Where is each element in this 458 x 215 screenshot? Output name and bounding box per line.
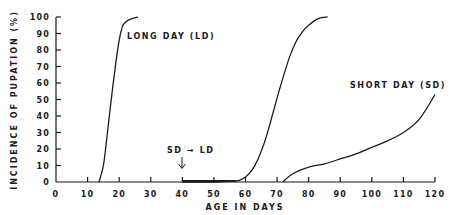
x-tick-label: 30 — [144, 190, 158, 199]
y-tick-label: 90 — [36, 30, 50, 39]
y-tick-label: 40 — [36, 112, 50, 121]
curves — [99, 17, 435, 182]
label-short-day: SHORT DAY (SD) — [350, 81, 446, 90]
y-tick-label: 0 — [43, 178, 50, 187]
x-tick-label: 80 — [302, 190, 316, 199]
pupation-chart: 0102030405060708090100110120010203040506… — [0, 0, 458, 215]
long-day-curve — [99, 17, 138, 182]
x-tick-label: 100 — [362, 190, 382, 199]
y-tick-label: 50 — [36, 96, 50, 105]
x-tick-label: 90 — [333, 190, 347, 199]
y-tick-label: 10 — [36, 162, 50, 171]
arrow-down-icon — [179, 157, 186, 169]
y-tick-label: 60 — [36, 79, 50, 88]
axes: 0102030405060708090100110120010203040506… — [30, 13, 445, 199]
label-long-day: LONG DAY (LD) — [127, 32, 215, 41]
x-tick-label: 50 — [207, 190, 221, 199]
x-tick-label: 40 — [176, 190, 190, 199]
x-axis-title: AGE IN DAYS — [205, 203, 284, 212]
x-tick-label: 10 — [81, 190, 95, 199]
x-tick-label: 60 — [239, 190, 253, 199]
label-sd-to-ld: SD → LD — [167, 146, 215, 155]
y-tick-label: 20 — [36, 145, 50, 154]
short-day-curve — [283, 95, 435, 183]
x-tick-label: 0 — [53, 190, 60, 199]
y-tick-label: 80 — [36, 46, 50, 55]
x-tick-label: 120 — [425, 190, 445, 199]
sd-to-ld-curve — [182, 17, 327, 182]
x-tick-label: 70 — [270, 190, 284, 199]
x-tick-label: 20 — [112, 190, 126, 199]
y-tick-label: 30 — [36, 129, 50, 138]
y-tick-label: 70 — [36, 63, 50, 72]
y-tick-label: 100 — [30, 13, 50, 22]
y-axis-title: INCIDENCE OF PUPATION (%) — [10, 10, 19, 190]
x-tick-label: 110 — [393, 190, 413, 199]
